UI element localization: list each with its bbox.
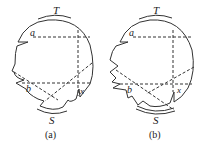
label-b-a: b (26, 83, 31, 94)
label-x-b: x (176, 85, 181, 95)
label-a-b: a (129, 27, 134, 38)
caption-b: (b) (149, 129, 161, 141)
figure: T a b x S (a) T a b x S (b) (0, 0, 205, 148)
label-S-b: S (153, 114, 159, 126)
panel-b (110, 15, 194, 114)
label-S-a: S (49, 114, 55, 126)
label-x-a: x (79, 86, 84, 96)
caption-a: (a) (45, 129, 56, 141)
label-b-b: b (127, 84, 132, 95)
label-T-a: T (53, 4, 60, 16)
label-a-a: a (30, 27, 35, 38)
panel-a (12, 15, 93, 113)
label-T-b: T (153, 4, 160, 16)
